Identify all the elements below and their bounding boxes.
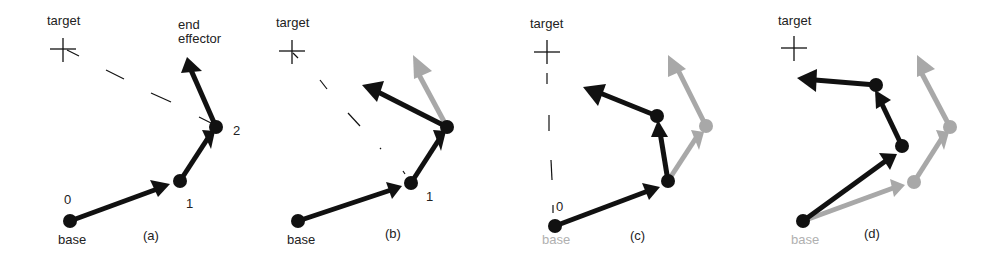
dashed-line [547, 73, 553, 213]
target-label: target [778, 14, 811, 27]
joint-label-2: 2 [233, 124, 240, 137]
target-label: target [276, 16, 309, 29]
panel-d [781, 36, 957, 228]
panel-a [50, 38, 223, 228]
base-label: base [791, 233, 819, 246]
panel-caption: (d) [864, 227, 880, 240]
end-effector-arrow-icon [181, 57, 202, 73]
joint-1 [173, 174, 187, 188]
target-cross-icon [50, 38, 76, 62]
target-cross-icon [781, 36, 807, 61]
target-cross-icon [534, 40, 560, 64]
panel-caption: (b) [385, 227, 401, 240]
diagram-canvas [0, 0, 997, 257]
joint-label-1: 1 [186, 197, 193, 210]
panel-caption: (c) [630, 229, 645, 242]
target-cross-icon [279, 40, 305, 64]
base-label: base [58, 233, 86, 246]
panel-caption: (a) [143, 229, 159, 242]
joint-label-0: 0 [64, 193, 71, 206]
end-effector-arrow-icon [797, 69, 817, 92]
joint-label-1: 1 [426, 190, 433, 203]
target-label: target [530, 17, 563, 30]
base-joint [63, 214, 77, 228]
target-label: target [47, 14, 80, 27]
ik-diagram: target end effector 0 1 2 base (a) targe… [0, 0, 997, 257]
joint-2 [209, 120, 223, 134]
end-effector-label: end effector [178, 18, 238, 47]
joint-label-0: 0 [556, 200, 563, 213]
dashed-line [320, 80, 405, 174]
base-label: base [287, 233, 315, 246]
base-label: base [542, 233, 570, 246]
